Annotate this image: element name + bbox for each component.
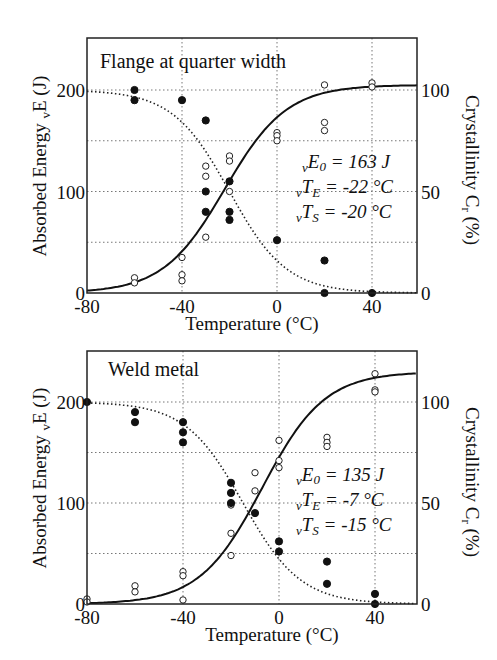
open-point [369,84,375,90]
param-te: vTE = -7 °C [296,489,384,513]
open-point [276,457,282,463]
filled-point [226,178,233,185]
filled-point [371,590,378,597]
open-point [321,82,327,88]
param-e0: vE0 = 163 J [302,151,391,175]
top-chart-flange: -80-400400100200050100 Flange at quarter… [29,38,483,335]
y2-tick-label: 0 [421,594,431,615]
filled-point [131,97,138,104]
y-tick-label: 100 [57,182,86,203]
open-point [131,280,137,286]
y2-tick-label: 100 [421,80,450,101]
y-tick-label: 0 [76,594,86,615]
y2-axis-label: Crystallinity Cr (%) [459,95,483,245]
filled-point [179,439,186,446]
filled-point [227,499,234,506]
open-point [276,437,282,443]
chart-title: Flange at quarter width [100,50,286,73]
param-te: vTE = -22 °C [296,176,393,200]
y2-tick-label: 50 [421,493,440,514]
open-point [180,597,186,603]
open-point [324,443,330,449]
open-point [179,254,185,260]
open-point [274,138,280,144]
filled-point [131,86,138,93]
filled-point [226,216,233,223]
open-point [203,173,209,179]
x-tick-label: 40 [363,296,382,317]
open-point [372,371,378,377]
y-axis-label: Absorbed Energy vE (J) [29,76,53,257]
y2-axis-label: Crystallinity Cr (%) [459,407,483,557]
y-tick-label: 0 [76,283,86,304]
x-axis-label: Temperature (°C) [185,313,318,335]
filled-point [202,117,209,124]
filled-point [273,237,280,244]
filled-point [226,208,233,215]
y-tick-label: 200 [57,80,86,101]
open-point [179,278,185,284]
open-point [226,158,232,164]
filled-point [179,419,186,426]
open-point [252,488,258,494]
open-point [179,272,185,278]
open-point [321,127,327,133]
filled-point [178,97,185,104]
bottom-chart-weld: -80-400400100200050100 Weld metal vE0 = … [29,351,483,646]
open-point [132,589,138,595]
filled-point [251,509,258,516]
x-tick-label: -40 [170,607,195,628]
y-axis-label: Absorbed Energy vE (J) [29,388,53,569]
open-point [276,464,282,470]
filled-point [227,489,234,496]
y2-tick-label: 50 [421,182,440,203]
figure: -80-400400100200050100 Flange at quarter… [0,0,497,660]
y-tick-label: 200 [57,392,86,413]
filled-point [275,538,282,545]
open-point [203,163,209,169]
open-point [228,530,234,536]
param-ts: vTS = -15 °C [296,514,392,538]
y-tick-label: 100 [57,493,86,514]
filled-point [323,580,330,587]
open-point [180,573,186,579]
filled-point [323,558,330,565]
x-axis-label: Temperature (°C) [205,624,338,646]
open-point [226,188,232,194]
open-point [372,389,378,395]
open-point [203,234,209,240]
filled-point [131,409,138,416]
filled-point [202,188,209,195]
filled-point [131,419,138,426]
x-tick-label: 40 [366,607,385,628]
open-point [321,119,327,125]
filled-point [275,548,282,555]
axis-ticks: -80-400400100200050100 [57,80,450,317]
filled-point [179,429,186,436]
chart-title: Weld metal [108,358,200,380]
filled-point [321,257,328,264]
y2-tick-label: 100 [421,392,450,413]
open-point [228,552,234,558]
filled-point [227,479,234,486]
open-point [132,583,138,589]
param-e0: vE0 = 135 J [296,464,385,488]
param-ts: vTS = -20 °C [296,201,392,225]
y2-tick-label: 0 [421,283,431,304]
open-point [252,470,258,476]
filled-point [202,208,209,215]
